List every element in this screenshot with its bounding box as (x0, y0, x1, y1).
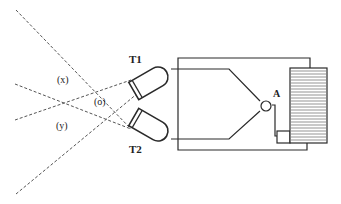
wire-t1-to-a (171, 69, 260, 101)
coil (290, 68, 327, 143)
sensor-t2-label: T2 (129, 144, 142, 155)
sensor-t1-label: T1 (129, 54, 142, 65)
wire-t2-to-a (171, 111, 260, 139)
zone-x-label: (x) (57, 75, 69, 85)
sensing-field-lines (15, 10, 138, 194)
node-a (261, 101, 271, 111)
sensor-t1-body (129, 63, 172, 99)
field-line-t2-upper (16, 10, 131, 129)
sensor-t1 (129, 63, 172, 99)
zone-y-label: (y) (56, 121, 68, 131)
sensor-t2-body (129, 108, 172, 144)
sensor-t2 (129, 108, 172, 144)
node-a-label: A (273, 89, 280, 99)
field-line-t1-upper (15, 80, 131, 120)
relay-box (277, 131, 290, 143)
sensor-circuit-diagram (0, 0, 341, 204)
coil-body (290, 68, 327, 143)
field-line-t2-lower (15, 84, 131, 129)
zone-o-label: (o) (94, 97, 106, 107)
